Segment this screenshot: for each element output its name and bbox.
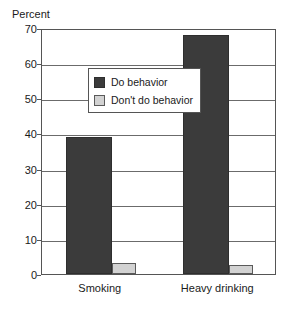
legend-swatch-dark-icon: [94, 77, 105, 88]
gridline: [42, 65, 275, 66]
y-tick-label: 30: [3, 165, 37, 176]
bar: [112, 263, 136, 274]
legend-item-dont-do-behavior: Don't do behavior: [94, 91, 195, 109]
y-tick-label: 40: [3, 129, 37, 140]
x-tick-label: Smoking: [78, 282, 121, 294]
legend-swatch-light-icon: [94, 95, 105, 106]
x-axis-tick-labels: SmokingHeavy drinking: [41, 282, 276, 302]
y-axis-tick-labels: 010203040506070: [0, 29, 37, 275]
y-tick-label: 20: [3, 200, 37, 211]
y-axis-title: Percent: [12, 8, 50, 20]
y-tick-label: 10: [3, 235, 37, 246]
bar: [66, 137, 112, 274]
y-tick-label: 70: [3, 24, 37, 35]
legend-label-dont-do-behavior: Don't do behavior: [111, 94, 193, 106]
plot-area: Do behavior Don't do behavior: [41, 29, 276, 275]
y-tick-label: 60: [3, 59, 37, 70]
y-tick-label: 0: [3, 270, 37, 281]
chart-legend: Do behavior Don't do behavior: [88, 68, 201, 113]
x-tick-label: Heavy drinking: [181, 282, 254, 294]
legend-label-do-behavior: Do behavior: [111, 76, 168, 88]
legend-item-do-behavior: Do behavior: [94, 73, 195, 91]
y-tick-label: 50: [3, 94, 37, 105]
bar: [229, 265, 253, 274]
bar-chart: Percent 010203040506070 Do behavior Don'…: [0, 0, 290, 315]
y-tick-mark: [37, 275, 41, 276]
